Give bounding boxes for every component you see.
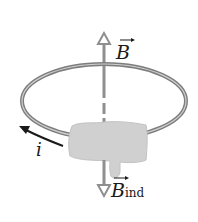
induction-diagram bbox=[0, 0, 198, 222]
current-label: i bbox=[36, 141, 42, 159]
applied-field-label: B bbox=[116, 43, 130, 62]
induced-field-arrow bbox=[98, 160, 110, 196]
induced-field-subscript: ind bbox=[125, 186, 144, 200]
induced-field-symbol: B bbox=[111, 179, 125, 201]
right-hand-icon bbox=[69, 122, 147, 178]
induced-field-label: Bind bbox=[111, 181, 144, 200]
